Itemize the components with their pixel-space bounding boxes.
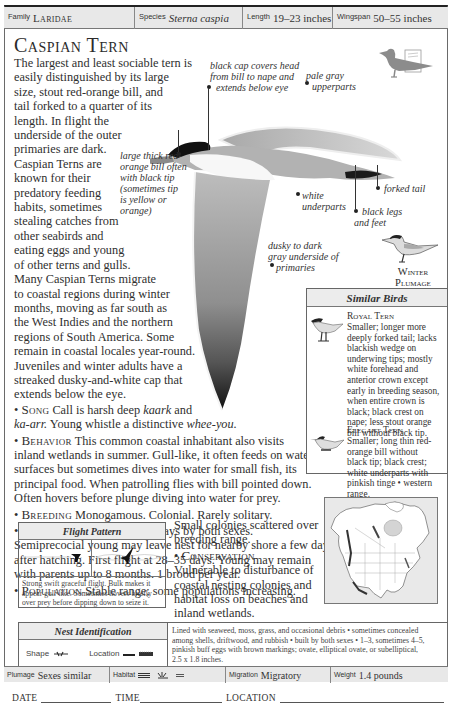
scrape-nest-shape-icon [53,650,69,658]
annotation-text: extends below eye [210,82,299,93]
population-conservation-column: Small colonies scattered over breeding r… [174,518,324,621]
annotation-text: with black tip [120,172,187,183]
page-title: Caspian Tern [14,34,129,57]
lake-icon [176,674,184,677]
song-heading: Song [21,402,49,417]
annotation-text: primaries [268,262,339,273]
annotation-text: white [302,190,346,201]
behavior-heading: Behavior [21,433,71,448]
weight-cell: Weight 1.4 pounds [331,667,448,683]
location-field[interactable] [280,692,444,703]
nest-description-line: 2.5 x 1.8 inches. [172,655,444,665]
date-label: DATE [12,693,37,703]
species-info-bar: Family Laridae Species Sterna caspia Len… [4,7,448,29]
conservation-text: inland wetlands. [174,606,324,620]
annotation-text: upperparts [306,81,356,92]
conservation-text: coastal nesting colonies and [174,578,324,592]
nest-identification-title: Nest Identification [19,623,167,640]
conservation-section: • Conservation [174,549,324,563]
song-text: Call is harsh deep [52,403,143,417]
similar-birds-box: Similar Birds Royal Tern Smaller; longer… [306,288,448,474]
winter-label-line: Plumage [378,277,448,288]
annotation-leader [178,130,179,152]
similar-bird-line: underwing tips; mostly [347,354,447,365]
time-label: TIME [115,693,139,703]
flight-pattern-diagrams [19,540,165,577]
nest-identification-box: Nest Identification Shape Location Lined… [18,622,448,666]
annotation-text: from bill to nape and [210,71,299,82]
annotation-text: black legs [354,206,402,217]
family-value: Laridae [33,12,72,24]
time-field[interactable] [140,692,222,703]
nest-shape-location: Shape Location [19,640,167,667]
song-call: ka-arr. [14,417,47,431]
species-footer-bar: Plumage Sexes similar Habitat Migration … [4,666,448,682]
species-value: Sterna caspia [169,12,229,24]
annotation-leader [377,165,378,186]
flight-pattern-caption: Strong swift graceful flight. Bulk makes… [19,577,165,610]
habitat-icons [138,671,194,679]
family-cell: Family Laridae [4,7,135,29]
annotation-primaries: dusky to dark gray underside of primarie… [268,240,339,273]
habitat-cell: Habitat [110,667,226,683]
winter-label-line: Winter [378,266,448,277]
length-value: 19–23 inches [273,12,331,24]
wingspan-cell: Wingspan 50–55 inches [333,7,448,29]
marsh-icon [158,672,168,678]
annotation-leader [208,88,209,150]
caption-line: over prey before dipping down to seize i… [22,598,162,608]
species-label: Species [139,12,166,21]
annotation-text: (sometimes tip [120,183,187,194]
nest-description-line: among shells, driftwood, and rubbish • b… [172,636,444,646]
migration-value: Migratory [261,670,302,681]
similar-birds-title: Similar Birds [307,289,447,307]
species-cell: Species Sterna caspia [135,7,243,29]
breeding-heading: Breeding [21,507,72,522]
elegant-tern-icon [309,431,345,461]
similar-bird-name: Royal Tern [347,311,394,321]
annotation-text: is yellow or [120,194,187,205]
weight-value: 1.4 pounds [359,670,403,681]
plumage-cell: Plumage Sexes similar [4,667,110,683]
annotation-text: underparts [302,201,346,212]
similar-bird-line: when entire crown is [347,396,447,407]
conservation-text: habitat loss on beaches and [174,592,324,606]
similar-bird-line: white forehead and [347,364,447,375]
annotation-text: black cap covers head [210,60,299,71]
wingspan-label: Wingspan [337,12,370,21]
annotation-text: and feet [354,217,402,228]
similar-bird-line: early in breeding season, [347,386,447,397]
ground-shore-location-icon [123,650,155,658]
similar-bird-line: white underparts with [347,468,447,479]
similar-bird-line: pinkish tinge • western [347,478,447,489]
annotation-forked-tail: forked tail [384,183,425,194]
length-label: Length [247,12,270,21]
population-text: Small colonies scattered over [174,518,324,532]
annotation-underparts: white underparts [302,190,346,212]
weight-label: Weight [334,671,356,678]
royal-tern-icon [309,313,345,349]
annotation-legs: black legs and feet [354,206,402,228]
nest-description-line: pinkish buff eggs with brown markings; o… [172,645,444,655]
caption-line: Strong swift graceful flight. Bulk makes… [22,579,162,589]
nest-description: Lined with seaweed, moss, grass, and occ… [168,623,448,666]
flight-pattern-straight [19,540,92,576]
annotation-dot [354,209,358,213]
similar-bird-name: Elegant Tern [347,425,403,435]
annotation-bill: large thick red- orange bill often with … [120,150,187,216]
annotation-text: gray underside of [268,251,339,262]
plumage-label: Plumage [7,671,35,678]
annotation-upperparts: pale gray upperparts [306,70,356,92]
annotation-dot [296,192,300,196]
annotation-dot [376,186,380,190]
similar-bird-line: black tip; black crest; [347,457,447,468]
similar-bird-line: orange bill without [347,447,447,458]
habitat-label: Habitat [113,671,135,678]
flight-pattern-hover-dive [92,540,166,576]
migration-cell: Migration Migratory [226,667,331,683]
bird-silhouette-icon [375,44,435,84]
similar-bird-line: black; black crest on [347,407,447,418]
winter-plumage-label: Winter Plumage [378,266,448,288]
date-field[interactable] [41,692,111,703]
nest-shape-label: Shape [26,649,49,658]
